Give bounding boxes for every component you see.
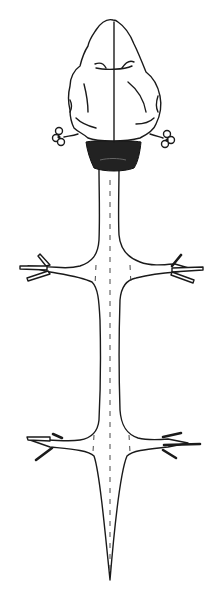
brachial-nerves-right: [171, 255, 203, 283]
optic-lobes-dark-region: [86, 141, 141, 172]
ear-structure-right: [150, 131, 175, 148]
spinal-cord: [28, 168, 192, 580]
lumbar-nerves-right: [163, 433, 200, 458]
brachial-nerves-left: [20, 254, 50, 281]
ear-structure-left: [53, 128, 79, 146]
brain-spinal-cord-illustration: [0, 0, 217, 594]
